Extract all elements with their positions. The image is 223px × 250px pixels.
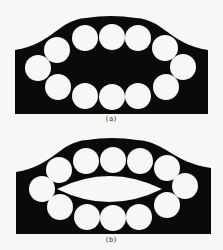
circle-hole xyxy=(125,25,151,51)
circle-hole xyxy=(125,83,151,109)
circle-hole xyxy=(127,148,153,174)
circle-hole xyxy=(170,54,196,80)
circle-hole xyxy=(172,173,198,199)
panel-a-diagram: (a) xyxy=(15,16,208,123)
circle-hole xyxy=(100,205,126,231)
circle-hole xyxy=(153,74,179,100)
circle-hole xyxy=(72,83,98,109)
circle-hole xyxy=(47,194,73,220)
circle-hole xyxy=(44,37,70,63)
circle-hole xyxy=(25,55,51,81)
circle-hole xyxy=(74,204,100,230)
circle-hole xyxy=(46,157,72,183)
circle-hole xyxy=(72,25,98,51)
circle-hole xyxy=(154,192,180,218)
circle-hole xyxy=(99,24,125,50)
panel-b-label: (b) xyxy=(105,236,118,244)
figure-canvas: (a) (b) xyxy=(0,0,223,250)
circle-hole xyxy=(99,84,125,110)
circle-hole xyxy=(45,74,71,100)
panel-a-label: (a) xyxy=(105,115,118,123)
circle-hole xyxy=(126,204,152,230)
circle-hole xyxy=(152,35,178,61)
circle-hole xyxy=(100,147,126,173)
circle-hole xyxy=(73,148,99,174)
panel-b-diagram: (b) xyxy=(16,138,211,244)
